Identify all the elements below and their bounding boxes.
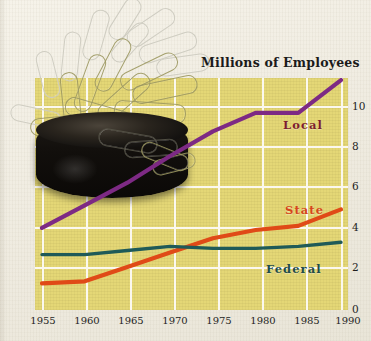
x-axis-tick-1975: 1975 (206, 315, 231, 326)
paperclip-icon (123, 5, 178, 51)
series-label-federal: Federal (266, 262, 322, 276)
y-axis-tick-2: 2 (352, 261, 359, 273)
x-axis-tick-1990: 1990 (335, 315, 360, 326)
paperclip-icon (137, 29, 200, 66)
paperclip-icon (60, 31, 82, 83)
series-label-local: Local (283, 118, 323, 132)
paperclip-icon (80, 8, 112, 63)
y-axis-tick-10: 10 (352, 100, 365, 112)
x-axis-tick-1970: 1970 (162, 315, 187, 326)
x-axis-tick-1955: 1955 (30, 315, 55, 326)
series-label-state: State (285, 203, 324, 217)
x-axis-tick-1985: 1985 (294, 315, 319, 326)
infographic-canvas: Millions of Employees 10 8 6 4 2 0 1955 … (0, 0, 371, 341)
chart-title: Millions of Employees (201, 55, 360, 70)
y-axis-tick-0: 0 (352, 303, 359, 315)
paperclip-icon (105, 0, 145, 43)
y-axis-tick-4: 4 (352, 221, 359, 233)
x-axis-tick-1965: 1965 (118, 315, 143, 326)
paperclip-icon (108, 19, 153, 66)
x-axis-tick-1980: 1980 (250, 315, 275, 326)
y-axis-tick-8: 8 (352, 140, 359, 152)
x-axis-tick-1960: 1960 (74, 315, 99, 326)
y-axis-tick-6: 6 (352, 180, 359, 192)
